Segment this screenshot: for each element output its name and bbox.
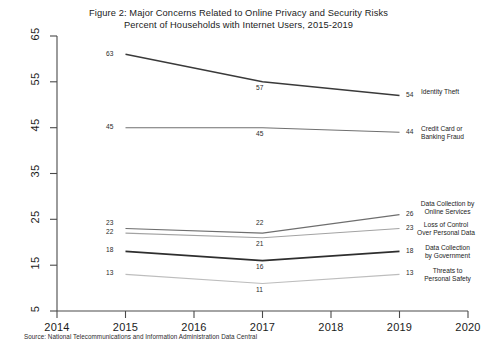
series-line-government: [126, 251, 400, 260]
series-label-online-services: Data Collection by Online Services: [418, 200, 477, 215]
x-tick-label-2016: 2016: [171, 321, 217, 333]
y-tick-label-25: 25: [29, 204, 41, 230]
x-tick-label-2020: 2020: [445, 321, 485, 333]
series-label-threats-safety: Threats to Personal Safety: [418, 267, 477, 282]
point-label-loss-of-control-2015: 22: [106, 228, 113, 235]
point-label-threats-safety-2017: 11: [256, 286, 263, 293]
point-label-government-2015: 18: [106, 246, 113, 253]
point-label-identity-theft-2017: 57: [256, 84, 263, 91]
series-label-identity-theft: Identity Theft: [421, 88, 477, 96]
point-label-credit-card-2017: 45: [256, 130, 263, 137]
y-tick-label-55: 55: [29, 66, 41, 92]
point-label-online-services-2015: 23: [106, 219, 113, 226]
y-tick-label-15: 15: [29, 250, 41, 276]
x-tick-label-2019: 2019: [377, 321, 423, 333]
point-label-threats-safety-2015: 13: [106, 269, 113, 276]
series-label-credit-card: Credit Card or Banking Fraud: [421, 125, 477, 140]
point-label-online-services-2019: 26: [406, 210, 413, 217]
point-label-government-2019: 18: [406, 247, 413, 254]
point-label-identity-theft-2019: 54: [406, 91, 413, 98]
point-label-identity-theft-2015: 63: [106, 50, 113, 57]
x-tick-label-2015: 2015: [103, 321, 149, 333]
y-tick-label-5: 5: [29, 296, 41, 322]
point-label-threats-safety-2019: 13: [406, 269, 413, 276]
y-tick-label-65: 65: [29, 21, 41, 47]
point-label-loss-of-control-2019: 23: [406, 224, 413, 231]
point-label-loss-of-control-2017: 21: [256, 240, 263, 247]
series-line-threats-safety: [126, 274, 400, 283]
x-tick-label-2017: 2017: [240, 321, 286, 333]
x-tick-label-2014: 2014: [34, 321, 80, 333]
point-label-credit-card-2015: 45: [106, 123, 113, 130]
y-tick-label-35: 35: [29, 158, 41, 184]
series-label-government: Data Collection by Government: [418, 244, 477, 259]
series-label-loss-of-control: Loss of Control Over Personal Data: [415, 221, 477, 236]
y-tick-label-45: 45: [29, 112, 41, 138]
source-note: Source: National Telecommunications and …: [24, 333, 257, 340]
point-label-online-services-2017: 22: [256, 219, 263, 226]
x-tick-label-2018: 2018: [308, 321, 354, 333]
point-label-credit-card-2019: 44: [406, 128, 413, 135]
point-label-government-2017: 16: [256, 263, 263, 270]
